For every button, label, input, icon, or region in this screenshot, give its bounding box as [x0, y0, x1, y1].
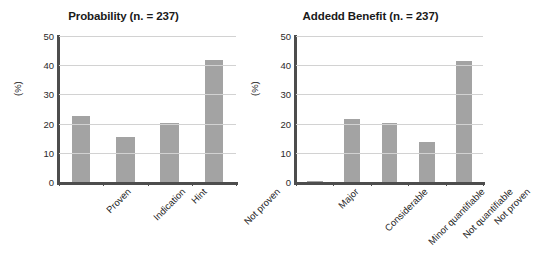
y-tick-label: 50 — [43, 31, 54, 42]
bar — [344, 119, 360, 182]
gridline — [296, 65, 483, 66]
plot-area-probability — [59, 36, 236, 182]
gridline — [296, 36, 483, 37]
y-tick-label: 10 — [280, 147, 291, 158]
bar — [456, 61, 472, 182]
gridline — [59, 153, 236, 154]
plot-wrap-added-benefit: (%) 01020304050 MajorConsiderableMinor q… — [247, 0, 494, 277]
y-axis-label-probability: (%) — [12, 81, 23, 96]
y-tick-label: 40 — [43, 60, 54, 71]
plot-area-added-benefit — [296, 36, 483, 182]
x-axis-labels-added-benefit: MajorConsiderableMinor quantifiableNot q… — [296, 186, 496, 276]
bar — [72, 116, 91, 182]
gridline — [296, 94, 483, 95]
y-tick-label: 10 — [43, 147, 54, 158]
gridline — [296, 124, 483, 125]
y-tick-label: 30 — [280, 89, 291, 100]
gridline — [59, 36, 236, 37]
x-tick-label: Major — [336, 186, 361, 211]
gridline — [296, 153, 483, 154]
y-tick-label: 30 — [43, 89, 54, 100]
bar-series-probability — [59, 36, 236, 182]
x-tick-label: Indication — [151, 186, 188, 223]
y-axis-ticks-probability: 01020304050 — [30, 36, 54, 182]
plot-wrap-probability: (%) 01020304050 ProvenIndicationHintNot … — [0, 0, 247, 277]
bar — [205, 60, 224, 182]
y-axis-label-added-benefit: (%) — [249, 81, 260, 96]
bar — [116, 137, 135, 182]
y-tick-label: 0 — [286, 177, 291, 188]
gridline — [59, 94, 236, 95]
bar — [419, 142, 435, 182]
bar — [307, 181, 323, 182]
y-tick-label: 50 — [280, 31, 291, 42]
x-axis-baseline — [294, 182, 485, 185]
chart-panel-probability: Probability (n. = 237) (%) 01020304050 P… — [0, 0, 247, 277]
y-axis-ticks-added-benefit: 01020304050 — [267, 36, 291, 182]
y-tick-label: 0 — [49, 177, 54, 188]
y-tick-label: 20 — [280, 118, 291, 129]
x-tick-label: Proven — [104, 186, 133, 215]
y-tick-label: 20 — [43, 118, 54, 129]
x-tick-label: Hint — [189, 186, 209, 206]
chart-panel-added-benefit: Addedd Benefit (n. = 237) (%) 0102030405… — [247, 0, 494, 277]
gridline — [59, 124, 236, 125]
gridline — [59, 65, 236, 66]
bar-series-added-benefit — [296, 36, 483, 182]
y-tick-label: 40 — [280, 60, 291, 71]
x-tick-label: Considerable — [382, 186, 429, 233]
x-axis-labels-probability: ProvenIndicationHintNot proven — [59, 186, 249, 276]
